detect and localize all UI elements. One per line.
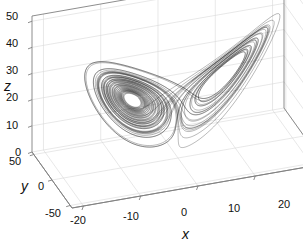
grid-z-right [284,3,303,59]
x-tick--20: -20 [70,214,86,226]
y-tick-50: 50 [9,155,21,167]
y-axis-label: y [21,178,28,194]
x-tick-10: 10 [228,202,240,214]
attractor-trajectory [85,14,280,148]
grid-z-right [284,82,303,138]
grid-z-right [284,56,303,112]
grid-z-right [284,108,303,164]
z-tick-mark [28,100,32,102]
z-tick-30: 30 [6,64,18,76]
z-tick-mark [28,152,32,154]
grid-y-floor [52,136,303,180]
y-tick-mark [30,155,34,156]
z-tick-50: 50 [6,10,18,22]
z-tick-mark [28,47,32,49]
z-tick-40: 40 [6,37,18,49]
axis-edge-y-right-floor [284,108,303,164]
figure-panel: 50 40 30 20 10 0 50 0 -50 -20 -10 0 10 2… [0,0,303,244]
z-tick-10: 10 [6,119,18,131]
y-tick-0: 0 [38,180,44,192]
axis-edge-top-right [284,0,303,28]
x-tick-20: 20 [278,198,290,210]
z-tick-mark [28,126,32,128]
front-axis-edges [32,152,303,208]
y-tick-mark [48,180,52,181]
grid-y-floor [70,161,303,205]
x-axis-label: x [182,226,189,242]
y-tick-mark [66,205,70,206]
grid-z-right [284,30,303,86]
z-axis-label: z [4,78,11,94]
z-tick-mark [28,21,32,23]
y-tick--50: -50 [45,207,61,219]
z-tick-mark [28,74,32,76]
x-tick-0: 0 [181,206,187,218]
x-tick--10: -10 [123,210,139,222]
grid-x-floor [273,110,303,166]
